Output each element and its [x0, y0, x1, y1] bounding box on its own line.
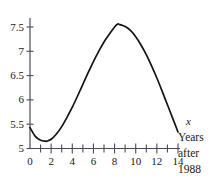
data-curve — [30, 24, 178, 141]
x-tick-label: 0 — [19, 156, 41, 167]
y-tick-label: 7 — [0, 46, 24, 57]
x-tick-label: 8 — [104, 156, 126, 167]
x-tick-label: 6 — [82, 156, 104, 167]
y-tick-label: 5 — [0, 143, 24, 154]
axis-group — [27, 18, 180, 149]
y-tick-label: 6 — [0, 94, 24, 105]
x-tick-label: 4 — [61, 156, 83, 167]
x-axis-caption-line-2: after — [178, 145, 216, 161]
chart-figure: 55.566.577.5 02468101214 x Years after 1… — [0, 0, 216, 184]
x-axis-caption: Years after 1988 — [178, 129, 216, 177]
x-axis-variable-label: x — [186, 116, 191, 127]
x-axis-caption-line-1: Years — [178, 129, 216, 145]
x-tick-label: 2 — [40, 156, 62, 167]
x-tick-label: 10 — [125, 156, 147, 167]
x-axis-caption-line-3: 1988 — [178, 161, 216, 177]
y-tick-label: 5.5 — [0, 119, 24, 130]
y-tick-label: 7.5 — [0, 22, 24, 33]
y-tick-label: 6.5 — [0, 70, 24, 81]
x-tick-label: 12 — [146, 156, 168, 167]
